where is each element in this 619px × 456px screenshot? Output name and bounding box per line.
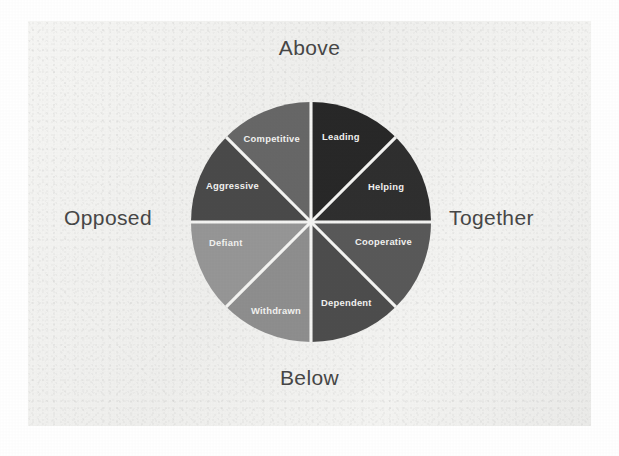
wheel-divider-lines — [191, 102, 431, 342]
wheel-label-cooperative: Cooperative — [355, 236, 412, 247]
wheel-label-aggressive: Aggressive — [206, 180, 259, 191]
axis-label-opposed: Opposed — [64, 206, 152, 230]
figure-root: Above Together Below Opposed LeadingHelp… — [0, 0, 619, 456]
circumplex-wheel-svg: LeadingHelpingCooperativeDependentWithdr… — [190, 101, 432, 343]
wheel-label-leading: Leading — [322, 131, 360, 142]
wheel-label-defiant: Defiant — [209, 237, 243, 248]
axis-label-below: Below — [0, 366, 619, 390]
wheel-label-dependent: Dependent — [321, 297, 372, 308]
circumplex-wheel: LeadingHelpingCooperativeDependentWithdr… — [190, 101, 432, 343]
wheel-label-helping: Helping — [368, 181, 404, 192]
axis-label-together: Together — [449, 206, 534, 230]
wheel-label-competitive: Competitive — [244, 133, 300, 144]
wheel-label-withdrawn: Withdrawn — [251, 305, 301, 316]
axis-label-above: Above — [0, 36, 619, 60]
